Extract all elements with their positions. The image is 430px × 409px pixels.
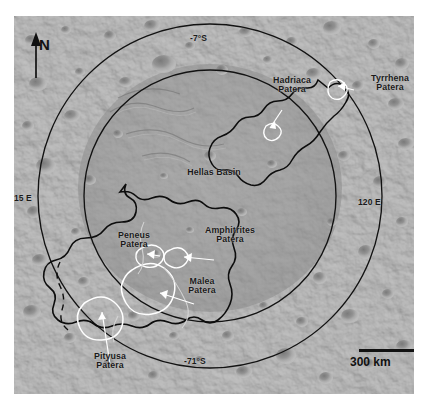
- feature-label-line: Patera: [70, 361, 150, 370]
- feature-label-pityusa-patera: Pityusa Patera: [70, 352, 150, 371]
- scale-bar-label: 300 km: [350, 355, 391, 369]
- map-figure: -7°S 15 E 120 E -71°S Hellas Basin Hadri…: [0, 0, 430, 409]
- feature-label-tyrrhena-patera: Tyrrhena Patera: [352, 74, 414, 93]
- feature-label-line: Hellas Basin: [172, 168, 256, 177]
- feature-label-line: Patera: [186, 235, 274, 244]
- scale-bar: 300 km: [350, 352, 391, 370]
- feature-label-hellas-basin: Hellas Basin: [172, 168, 256, 177]
- feature-label-line: Patera: [254, 85, 330, 94]
- feature-label-malea-patera: Malea Patera: [164, 277, 240, 296]
- feature-label-line: Patera: [164, 286, 240, 295]
- graticule-label-lon-left: 15 E: [14, 194, 32, 203]
- feature-label-line: Patera: [96, 240, 172, 249]
- mars-shaded-relief-map: -7°S 15 E 120 E -71°S Hellas Basin Hadri…: [14, 16, 414, 394]
- feature-label-hadriaca-patera: Hadriaca Patera: [254, 76, 330, 95]
- feature-label-peneus-patera: Peneus Patera: [96, 231, 172, 250]
- map-vector-overlay: [14, 16, 414, 394]
- graticule-label-lon-right: 120 E: [358, 198, 381, 207]
- patera-outline-amphitrites: [164, 248, 188, 268]
- feature-label-line: Patera: [352, 83, 414, 92]
- north-arrow-label: N: [39, 36, 50, 53]
- graticule-label-lat-bottom: -71°S: [184, 357, 206, 366]
- hellas-unit-boundary: [44, 184, 239, 328]
- graticule-label-lat-top: -7°S: [190, 34, 207, 43]
- feature-label-amphitrites-patera: Amphitrites Patera: [186, 226, 274, 245]
- outer-ring-circle: [38, 24, 382, 368]
